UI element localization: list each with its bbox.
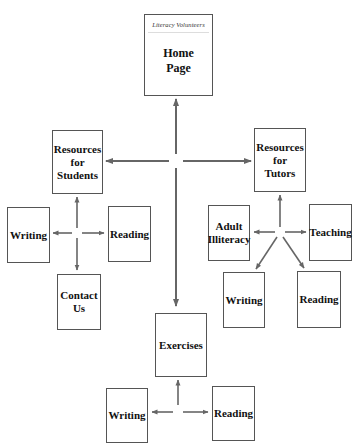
node-exercises: Exercises — [155, 313, 207, 377]
literacy-volunteers-logo: Literacy Volunteers — [148, 18, 210, 33]
node-home-page: Literacy Volunteers Home Page — [144, 14, 213, 96]
node-label: Reading — [110, 228, 149, 241]
node-label: Exercises — [159, 339, 203, 352]
node-label: Writing — [225, 294, 262, 307]
node-exercises-reading: Reading — [212, 386, 255, 441]
site-map-diagram: Literacy Volunteers Home Page Resources … — [0, 0, 360, 446]
node-teaching: Teaching — [309, 204, 352, 261]
node-label: Adult Illiteracy — [208, 220, 251, 246]
node-tutors-reading: Reading — [297, 271, 341, 328]
node-label: Writing — [108, 409, 145, 422]
node-label: Reading — [214, 407, 253, 420]
node-label: Reading — [299, 293, 338, 306]
node-label: Teaching — [309, 226, 351, 239]
node-contact-us: Contact Us — [57, 274, 101, 330]
node-students-writing: Writing — [7, 207, 50, 263]
node-label: Resources for Students — [54, 143, 101, 182]
node-resources-for-students: Resources for Students — [52, 130, 103, 194]
node-exercises-writing: Writing — [106, 388, 148, 443]
node-students-reading: Reading — [108, 206, 151, 262]
node-label: Writing — [10, 229, 47, 242]
node-tutors-writing: Writing — [223, 272, 265, 328]
node-label: Resources for Tutors — [256, 141, 303, 180]
node-label: Home Page — [163, 46, 194, 76]
node-label: Contact Us — [60, 289, 97, 315]
node-adult-illiteracy: Adult Illiteracy — [208, 205, 250, 261]
node-resources-for-tutors: Resources for Tutors — [254, 128, 306, 192]
